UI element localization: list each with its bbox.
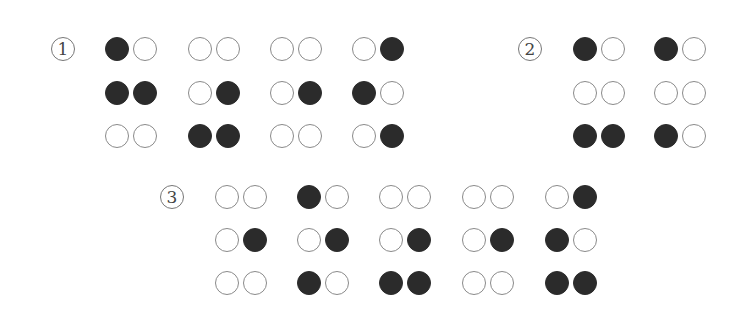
empty-dot-icon xyxy=(380,81,404,105)
empty-dot-icon xyxy=(573,228,597,252)
empty-dot-icon xyxy=(462,185,486,209)
filled-dot-icon xyxy=(601,124,625,148)
empty-dot-icon xyxy=(325,185,349,209)
filled-dot-icon xyxy=(380,37,404,61)
filled-dot-icon xyxy=(490,228,514,252)
empty-dot-icon xyxy=(462,228,486,252)
empty-dot-icon xyxy=(379,185,403,209)
empty-dot-icon xyxy=(682,37,706,61)
filled-dot-icon xyxy=(380,124,404,148)
filled-dot-icon xyxy=(216,124,240,148)
empty-dot-icon xyxy=(270,81,294,105)
empty-dot-icon xyxy=(490,185,514,209)
filled-dot-icon xyxy=(297,271,321,295)
empty-dot-icon xyxy=(298,124,322,148)
filled-dot-icon xyxy=(297,185,321,209)
filled-dot-icon xyxy=(654,124,678,148)
filled-dot-icon xyxy=(133,81,157,105)
empty-dot-icon xyxy=(601,81,625,105)
filled-dot-icon xyxy=(573,185,597,209)
empty-dot-icon xyxy=(215,228,239,252)
filled-dot-icon xyxy=(545,228,569,252)
filled-dot-icon xyxy=(379,271,403,295)
group-label-2: 2 xyxy=(518,37,542,61)
empty-dot-icon xyxy=(682,81,706,105)
filled-dot-icon xyxy=(105,37,129,61)
empty-dot-icon xyxy=(133,37,157,61)
empty-dot-icon xyxy=(407,185,431,209)
empty-dot-icon xyxy=(243,185,267,209)
filled-dot-icon xyxy=(325,228,349,252)
empty-dot-icon xyxy=(270,37,294,61)
empty-dot-icon xyxy=(379,228,403,252)
empty-dot-icon xyxy=(490,271,514,295)
filled-dot-icon xyxy=(545,271,569,295)
filled-dot-icon xyxy=(573,37,597,61)
empty-dot-icon xyxy=(325,271,349,295)
empty-dot-icon xyxy=(573,81,597,105)
empty-dot-icon xyxy=(654,81,678,105)
empty-dot-icon xyxy=(270,124,294,148)
filled-dot-icon xyxy=(298,81,322,105)
filled-dot-icon xyxy=(573,124,597,148)
empty-dot-icon xyxy=(601,37,625,61)
empty-dot-icon xyxy=(297,228,321,252)
filled-dot-icon xyxy=(573,271,597,295)
empty-dot-icon xyxy=(682,124,706,148)
empty-dot-icon xyxy=(352,124,376,148)
empty-dot-icon xyxy=(133,124,157,148)
empty-dot-icon xyxy=(462,271,486,295)
empty-dot-icon xyxy=(298,37,322,61)
filled-dot-icon xyxy=(407,271,431,295)
empty-dot-icon xyxy=(243,271,267,295)
group-label-3: 3 xyxy=(160,185,184,209)
filled-dot-icon xyxy=(105,81,129,105)
filled-dot-icon xyxy=(654,37,678,61)
empty-dot-icon xyxy=(352,37,376,61)
filled-dot-icon xyxy=(216,81,240,105)
filled-dot-icon xyxy=(407,228,431,252)
empty-dot-icon xyxy=(188,37,212,61)
empty-dot-icon xyxy=(188,81,212,105)
empty-dot-icon xyxy=(216,37,240,61)
empty-dot-icon xyxy=(215,185,239,209)
empty-dot-icon xyxy=(215,271,239,295)
empty-dot-icon xyxy=(545,185,569,209)
filled-dot-icon xyxy=(243,228,267,252)
filled-dot-icon xyxy=(188,124,212,148)
filled-dot-icon xyxy=(352,81,376,105)
group-label-1: 1 xyxy=(51,37,75,61)
empty-dot-icon xyxy=(105,124,129,148)
